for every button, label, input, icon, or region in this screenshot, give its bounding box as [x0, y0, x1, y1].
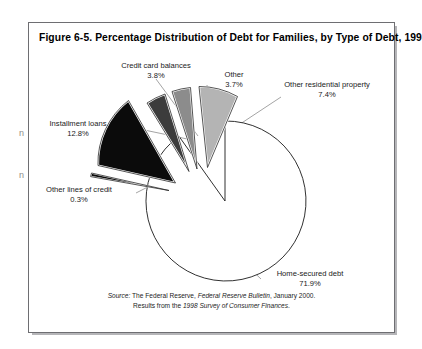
callout-other-lines-of-credit: Other lines of credit 0.3%: [26, 185, 132, 204]
callout-other-lines-of-credit-value: 0.3%: [26, 195, 132, 205]
callout-other-residential-property-label: Other residential property: [284, 80, 370, 89]
callout-home-secured-debt-label: Home-secured debt: [277, 269, 344, 278]
page-edge-bleed-text: n n: [0, 0, 26, 349]
callout-credit-card-balances: Credit card balances 3.8%: [101, 61, 211, 80]
callout-other-value: 3.7%: [205, 80, 263, 90]
callout-other-residential-property: Other residential property 7.4%: [265, 80, 389, 99]
source-survey-title: 1998 Survey of Consumer Finances: [183, 302, 288, 309]
source-line-2: Results from the 1998 Survey of Consumer…: [29, 301, 394, 311]
pie-chart: Credit card balances 3.8% Other 3.7% Oth…: [29, 23, 394, 332]
pie-slice-home-secured: [146, 121, 306, 281]
callout-other-lines-of-credit-label: Other lines of credit: [46, 185, 112, 194]
callout-installment-loans-value: 12.8%: [28, 129, 128, 139]
source-line-1-a: The Federal Reserve,: [130, 292, 197, 299]
edge-bleed-fragment-bottom: n: [19, 170, 24, 180]
source-publication-title: Federal Reserve Bulletin: [198, 292, 270, 299]
source-prefix: Source:: [108, 292, 131, 299]
figure-source-note: Source: The Federal Reserve, Federal Res…: [29, 291, 394, 310]
callout-other-label: Other: [225, 70, 244, 79]
edge-bleed-fragment-top: n: [19, 128, 24, 138]
figure-frame: Figure 6-5. Percentage Distribution of D…: [28, 22, 395, 333]
callout-home-secured-debt-value: 71.9%: [251, 279, 369, 289]
source-line-1: Source: The Federal Reserve, Federal Res…: [29, 291, 394, 301]
callout-credit-card-balances-label: Credit card balances: [121, 61, 191, 70]
callout-other: Other 3.7%: [205, 70, 263, 89]
callout-installment-loans: Installment loans 12.8%: [28, 119, 128, 138]
source-line-2-b: .: [288, 302, 290, 309]
callout-other-residential-property-value: 7.4%: [265, 90, 389, 100]
source-line-1-b: , January 2000.: [270, 292, 315, 299]
source-line-2-a: Results from the: [133, 302, 183, 309]
callout-credit-card-balances-value: 3.8%: [101, 71, 211, 81]
callout-installment-loans-label: Installment loans: [50, 119, 107, 128]
callout-home-secured-debt: Home-secured debt 71.9%: [251, 269, 369, 288]
